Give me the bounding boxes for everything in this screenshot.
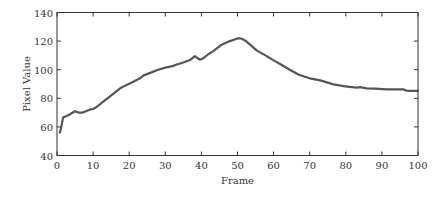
y-tick-label: 40 (40, 151, 53, 162)
y-axis: 406080100120140 (34, 8, 418, 162)
plot-area (57, 13, 418, 156)
x-tick-label: 70 (303, 160, 316, 171)
x-tick-label: 0 (54, 160, 60, 171)
data-series (60, 38, 418, 132)
line-chart: 0102030405060708090100 406080100120140 F… (0, 0, 446, 197)
x-tick-label: 50 (231, 160, 244, 171)
x-tick-label: 20 (123, 160, 136, 171)
x-axis-title: Frame (221, 175, 254, 186)
x-tick-label: 100 (408, 160, 427, 171)
x-tick-label: 10 (87, 160, 100, 171)
y-tick-label: 120 (34, 36, 53, 47)
y-tick-label: 140 (34, 8, 53, 19)
y-tick-label: 100 (34, 65, 53, 76)
x-tick-label: 90 (376, 160, 389, 171)
y-tick-label: 60 (40, 122, 53, 133)
y-axis-title: Pixel Value (21, 56, 32, 112)
x-tick-label: 80 (339, 160, 352, 171)
x-tick-label: 60 (267, 160, 280, 171)
series-line (60, 38, 418, 132)
y-tick-label: 80 (40, 93, 53, 104)
x-tick-label: 30 (159, 160, 172, 171)
x-axis: 0102030405060708090100 (54, 13, 428, 171)
x-tick-label: 40 (195, 160, 208, 171)
